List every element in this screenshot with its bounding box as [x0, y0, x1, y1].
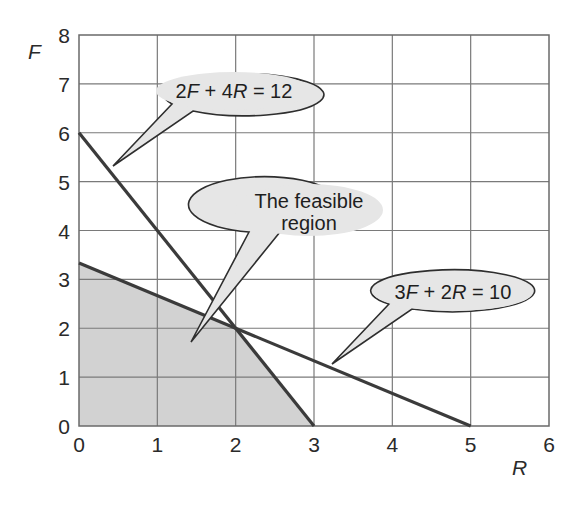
callout-feasible-region: The feasible region — [189, 177, 384, 342]
y-tick-label: 7 — [58, 73, 70, 96]
x-tick-label: 5 — [465, 433, 477, 456]
y-tick-label: 4 — [58, 220, 70, 243]
y-tick-label: 1 — [58, 366, 70, 389]
y-tick-label: 8 — [58, 24, 70, 47]
y-tick-label: 3 — [58, 268, 70, 291]
x-tick-label: 3 — [308, 433, 320, 456]
y-axis-label: F — [28, 40, 42, 63]
y-tick-label: 6 — [58, 122, 70, 145]
y-tick-label: 5 — [58, 171, 70, 194]
linear-programming-chart: 0123456 012345678 F R 2F + 4R = 12 The f… — [0, 0, 583, 506]
x-tick-label: 2 — [230, 433, 242, 456]
callout-text-2-line-2: region — [281, 212, 337, 234]
x-tick-label: 0 — [73, 433, 85, 456]
x-tick-label: 6 — [543, 433, 555, 456]
callout-text-2-line-1: The feasible — [255, 190, 364, 212]
x-axis-ticks: 0123456 — [73, 433, 555, 456]
y-axis-ticks: 012345678 — [58, 24, 70, 438]
callout-constraint-1: 2F + 4R = 12 — [113, 72, 324, 166]
callout-text-1: 2F + 4R = 12 — [176, 80, 293, 102]
y-tick-label: 0 — [58, 415, 70, 438]
x-tick-label: 1 — [151, 433, 163, 456]
y-tick-label: 2 — [58, 317, 70, 340]
x-tick-label: 4 — [386, 433, 398, 456]
callout-text-3: 3F + 2R = 10 — [395, 281, 512, 303]
callout-constraint-2: 3F + 2R = 10 — [332, 270, 535, 364]
x-axis-label: R — [512, 456, 527, 479]
